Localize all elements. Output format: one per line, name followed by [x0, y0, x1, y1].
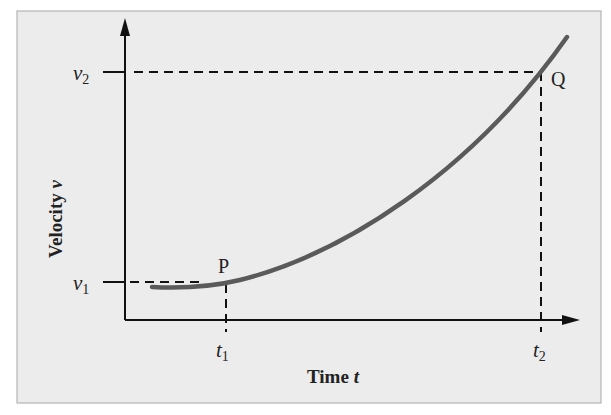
point-q-label: Q	[551, 68, 566, 90]
x-axis-title: Time t	[307, 366, 360, 387]
velocity-time-diagram: P Q v2 v1 t1 t2 Time t Velocity v	[0, 0, 611, 415]
diagram-frame	[17, 11, 601, 403]
point-p-label: P	[218, 255, 229, 277]
y-axis-title: Velocity v	[45, 180, 66, 258]
